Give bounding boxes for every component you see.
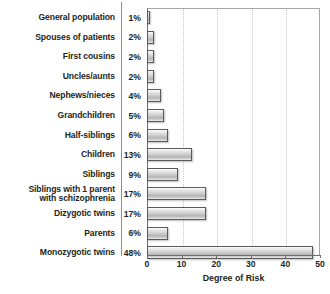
x-axis-line bbox=[147, 255, 320, 256]
bar-slot bbox=[147, 184, 320, 204]
x-tick-label: 10 bbox=[177, 259, 187, 269]
bar bbox=[147, 187, 206, 200]
category-label: Dizygotic twins bbox=[0, 209, 118, 218]
x-tick-label: 50 bbox=[315, 259, 325, 269]
bar-slot bbox=[147, 126, 320, 146]
bar-slot bbox=[147, 165, 320, 185]
x-tick-40 bbox=[285, 255, 286, 258]
risk-bar-chart: General population1%Spouses of patients2… bbox=[0, 0, 330, 294]
x-tick-10 bbox=[182, 255, 183, 258]
x-tick-50 bbox=[320, 255, 321, 258]
bar bbox=[147, 227, 168, 240]
bar bbox=[147, 168, 178, 181]
category-label: Nephews/nieces bbox=[0, 91, 118, 100]
label-separator bbox=[121, 2, 122, 256]
bar-slot bbox=[147, 204, 320, 224]
category-label: Monozygotic twins bbox=[0, 248, 118, 257]
category-label: Grandchildren bbox=[0, 111, 118, 120]
x-tick-label: 20 bbox=[211, 259, 221, 269]
bar-slot bbox=[147, 106, 320, 126]
bar bbox=[147, 207, 206, 220]
bar-slot bbox=[147, 28, 320, 48]
x-tick-0 bbox=[147, 255, 148, 258]
category-label: General population bbox=[0, 13, 118, 22]
x-tick-30 bbox=[251, 255, 252, 258]
category-label: Parents bbox=[0, 229, 118, 238]
x-tick-20 bbox=[216, 255, 217, 258]
x-tick-label: 30 bbox=[246, 259, 256, 269]
category-label: Siblings with 1 parent with schizophreni… bbox=[0, 185, 118, 204]
bar bbox=[147, 70, 154, 83]
bar-slot bbox=[147, 8, 320, 28]
category-label: Half-siblings bbox=[0, 131, 118, 140]
bars-layer bbox=[147, 8, 320, 256]
bar-slot bbox=[147, 145, 320, 165]
bar bbox=[147, 50, 154, 63]
bar-slot bbox=[147, 86, 320, 106]
category-label: Spouses of patients bbox=[0, 33, 118, 42]
bar-slot bbox=[147, 67, 320, 87]
bar bbox=[147, 109, 164, 122]
category-label: First cousins bbox=[0, 52, 118, 61]
x-tick-label: 40 bbox=[281, 259, 291, 269]
bar bbox=[147, 129, 168, 142]
x-axis-title: Degree of Risk bbox=[147, 273, 320, 283]
bar bbox=[147, 246, 313, 259]
bar bbox=[147, 148, 192, 161]
bar-slot bbox=[147, 224, 320, 244]
bar bbox=[147, 11, 150, 24]
bar bbox=[147, 31, 154, 44]
category-label: Uncles/aunts bbox=[0, 72, 118, 81]
bar-slot bbox=[147, 243, 320, 263]
bar-slot bbox=[147, 47, 320, 67]
x-tick-label: 0 bbox=[145, 259, 150, 269]
bar bbox=[147, 89, 161, 102]
category-label: Children bbox=[0, 150, 118, 159]
category-label: Siblings bbox=[0, 170, 118, 179]
